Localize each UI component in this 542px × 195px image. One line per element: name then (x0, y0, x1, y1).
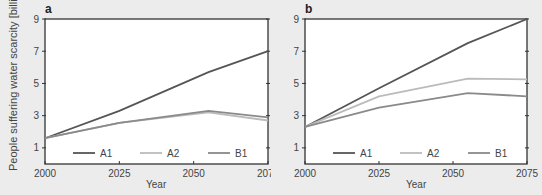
y-tick-label: 5 (33, 78, 39, 89)
plot-area: 135792000202520502075A1A2B1 (0, 0, 271, 195)
x-tick-label: 2025 (368, 168, 391, 179)
y-tick-label: 9 (293, 14, 299, 25)
legend-label: A1 (360, 148, 373, 159)
legend-label: A1 (100, 148, 113, 159)
x-tick-label: 2025 (108, 168, 131, 179)
y-tick-label: 1 (293, 142, 299, 153)
y-tick-label: 7 (293, 46, 299, 57)
legend-label: A2 (167, 148, 180, 159)
y-tick-label: 1 (33, 142, 39, 153)
legend-label: B1 (235, 148, 248, 159)
x-tick-label: 2075 (516, 168, 539, 179)
y-tick-label: 3 (33, 110, 39, 121)
y-tick-label: 9 (33, 14, 39, 25)
legend-label: A2 (427, 148, 440, 159)
plot-area: 135792000202520502075A1A2B1 (271, 0, 542, 195)
panel-b: b 135792000202520502075A1A2B1 Year (271, 0, 542, 195)
y-tick-label: 3 (293, 110, 299, 121)
legend-label: B1 (495, 148, 508, 159)
plot-frame (305, 19, 527, 164)
x-axis-label: Year (146, 179, 166, 190)
x-tick-label: 2000 (294, 168, 317, 179)
plot-frame (45, 19, 268, 164)
x-tick-label: 2050 (442, 168, 465, 179)
x-axis-label: Year (406, 179, 426, 190)
y-tick-label: 7 (33, 46, 39, 57)
x-tick-label: 2050 (183, 168, 206, 179)
y-tick-label: 5 (293, 78, 299, 89)
panel-a: People suffering water scarcity [billion… (0, 0, 271, 195)
x-tick-label: 2000 (34, 168, 57, 179)
x-tick-label: 2075 (257, 168, 271, 179)
